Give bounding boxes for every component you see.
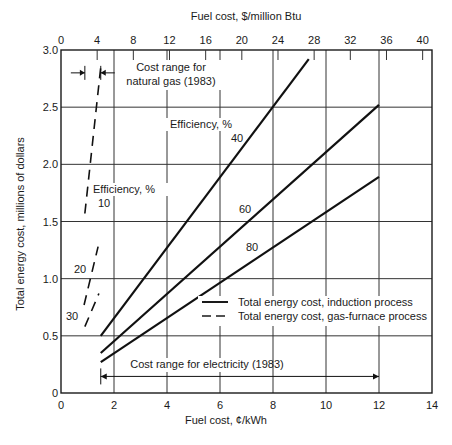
natural-gas-cost-range xyxy=(71,63,115,83)
series-label-20: 20 xyxy=(74,263,86,275)
y-tick-label: 0.5 xyxy=(43,330,58,342)
series-labels: 406080102030 xyxy=(66,132,258,322)
series-label-60: 60 xyxy=(239,203,251,215)
series-label-30: 30 xyxy=(66,310,78,322)
x2-tick-label: 28 xyxy=(308,34,320,46)
x-tick-label: 4 xyxy=(164,399,170,411)
series-label-40: 40 xyxy=(231,132,243,144)
y-tick-label: 2.5 xyxy=(43,101,58,113)
x-tick-label: 8 xyxy=(270,399,276,411)
electricity-range-text: Cost range for electricity (1983) xyxy=(130,358,283,370)
x2-tick-label: 8 xyxy=(130,34,136,46)
induction-efficiency-label: Efficiency, % xyxy=(160,118,244,131)
x-tick-label: 6 xyxy=(217,399,223,411)
x2-tick-label: 12 xyxy=(163,34,175,46)
series-line-gas-30 xyxy=(85,294,99,327)
legend-label-gas: Total energy cost, gas-furnace process xyxy=(238,310,427,322)
y-axis-label: Total energy cost, millions of dollars xyxy=(14,137,26,311)
series-label-80: 80 xyxy=(246,241,258,253)
x2-tick-label: 24 xyxy=(272,34,284,46)
x-tick-label: 2 xyxy=(111,399,117,411)
x2-tick-label: 20 xyxy=(236,34,248,46)
series-line-induction-40 xyxy=(101,59,309,336)
x2-axis-label: Fuel cost, $/million Btu xyxy=(191,10,302,22)
y-tick-label: 2.0 xyxy=(43,158,58,170)
efficiency-label-induction: Efficiency, % xyxy=(170,118,232,130)
x2-tick-label: 40 xyxy=(417,34,429,46)
x-axis-label: Fuel cost, ¢/kWh xyxy=(185,414,267,426)
y-tick-label: 0 xyxy=(52,387,58,399)
x2-tick-label: 4 xyxy=(94,34,100,46)
y-tick-label: 1.5 xyxy=(43,216,58,228)
y-tick-label: 3.0 xyxy=(43,44,58,56)
x2-tick-label: 0 xyxy=(58,34,64,46)
x2-tick-label: 16 xyxy=(200,34,212,46)
gas-range-label: Cost range for natural gas (1983) xyxy=(117,60,225,90)
x2-tick-label: 36 xyxy=(380,34,392,46)
y-tick-label: 1.0 xyxy=(43,273,58,285)
series-label-10: 10 xyxy=(98,197,110,209)
x-tick-label: 12 xyxy=(373,399,385,411)
x-tick-label: 10 xyxy=(320,399,332,411)
x-tick-label: 0 xyxy=(58,399,64,411)
legend-label-induction: Total energy cost, induction process xyxy=(238,296,413,308)
grid xyxy=(61,50,432,393)
efficiency-label-gas: Efficiency, % xyxy=(93,183,155,195)
chart: 0246810121400.51.01.52.02.53.00481216202… xyxy=(0,0,452,445)
electricity-range-arrow-right xyxy=(373,373,379,379)
gas-efficiency-label: Efficiency, % xyxy=(91,183,169,196)
series-line-gas-20 xyxy=(84,247,98,305)
x-tick-label: 14 xyxy=(426,399,438,411)
electricity-range-arrow-left xyxy=(101,373,107,379)
gas-range-label-line1: Cost range for xyxy=(136,61,206,73)
electricity-range-label: Cost range for electricity (1983) xyxy=(130,358,283,372)
gas-range-label-line2: natural gas (1983) xyxy=(126,75,215,87)
x2-tick-label: 32 xyxy=(344,34,356,46)
legend: Total energy cost, induction process Tot… xyxy=(198,296,427,326)
